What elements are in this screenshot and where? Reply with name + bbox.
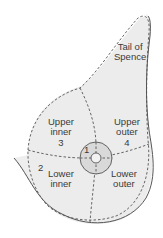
- label-lower-outer: Lower outer: [111, 169, 137, 189]
- label-lower-inner-line2: inner: [48, 179, 74, 189]
- label-lower-inner: Lower inner: [48, 169, 74, 189]
- nipple: [91, 153, 101, 163]
- label-lower-outer-line2: outer: [111, 179, 137, 189]
- label-upper-outer: Upper outer 4: [114, 117, 140, 148]
- label-lower-inner-number: 2: [38, 163, 43, 173]
- label-tail-of-spence: Tail of Spence: [114, 42, 146, 62]
- label-central-number: 1: [84, 145, 89, 155]
- label-upper-inner-line2: inner: [48, 127, 74, 137]
- label-tail-line2: Spence: [114, 52, 146, 62]
- label-upper-inner-number: 3: [48, 138, 74, 148]
- label-upper-outer-line2: outer: [114, 127, 140, 137]
- breast-quadrants-diagram: Tail of Spence Upper inner 3 Upper outer…: [0, 0, 163, 238]
- label-upper-outer-number: 4: [114, 138, 140, 148]
- label-upper-inner: Upper inner 3: [48, 117, 74, 148]
